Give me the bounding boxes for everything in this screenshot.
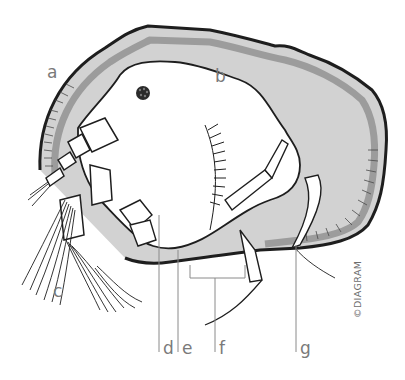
label-f: f [219, 340, 225, 357]
diagram-canvas: a b c d e f g ©DIAGRAM [0, 0, 405, 380]
label-a: a [47, 64, 57, 81]
label-g: g [300, 340, 311, 357]
eye [136, 86, 150, 100]
label-e: e [182, 340, 192, 357]
antenna-setae [28, 182, 50, 206]
copyright-notice: ©DIAGRAM [352, 261, 363, 318]
leg-claw [205, 280, 262, 325]
label-b: b [215, 68, 226, 85]
label-d: d [163, 340, 174, 357]
ostracod-illustration [0, 0, 405, 380]
label-c: c [53, 283, 62, 300]
furca-setae [295, 248, 335, 278]
